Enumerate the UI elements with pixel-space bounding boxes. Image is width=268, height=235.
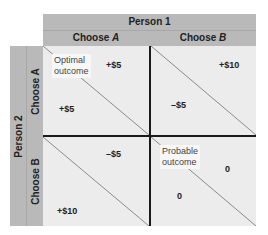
row-header-band: Person 2 Choose A Choose B	[10, 46, 43, 226]
payoff-person2: +$10	[57, 206, 77, 216]
cell-a-b: +$10 –$5	[151, 46, 256, 135]
person2-label: Person 2	[13, 107, 24, 167]
diagonal-line	[151, 46, 256, 135]
horizontal-divider	[43, 135, 256, 137]
payoff-person2: +$5	[59, 104, 74, 114]
payoff-person2: –$5	[171, 100, 186, 110]
payoff-person1: –$5	[106, 149, 121, 159]
cell-b-b: Probableoutcome 0 0	[151, 137, 256, 226]
person1-label: Person 1	[43, 16, 256, 27]
payoff-person1: 0	[225, 164, 230, 174]
cell-b-a: –$5 +$10	[43, 137, 149, 226]
payoff-matrix: Optimaloutcome +$5 +$5 +$10 –$5 –$5 +$10…	[43, 46, 256, 226]
row-choose-a: Choose A	[30, 62, 41, 122]
column-header-band: Person 1 Choose A Choose B	[43, 14, 256, 46]
payoff-person1: +$5	[106, 60, 121, 70]
payoff-person1: +$10	[219, 60, 239, 70]
column-choose-b: Choose B	[150, 32, 256, 43]
probable-outcome-note: Probableoutcome	[160, 145, 200, 169]
optimal-outcome-note: Optimaloutcome	[52, 54, 91, 78]
row-choose-b: Choose B	[30, 152, 41, 212]
column-choose-a: Choose A	[43, 32, 149, 43]
payoff-person2: 0	[177, 191, 182, 201]
cell-a-a: Optimaloutcome +$5 +$5	[43, 46, 149, 135]
